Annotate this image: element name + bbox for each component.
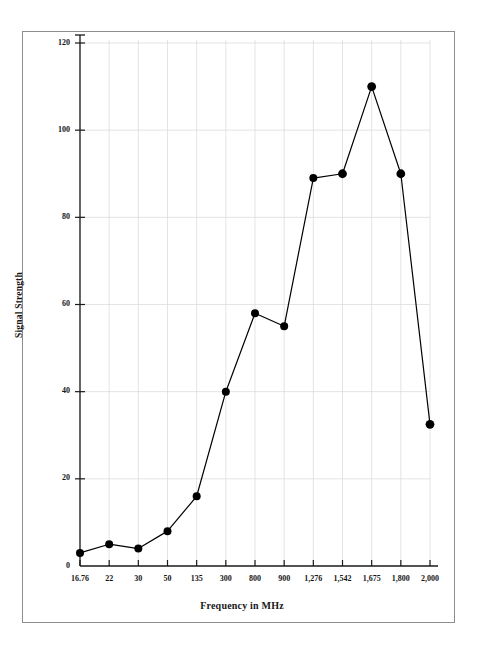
- y-tick-label: 0: [36, 561, 70, 570]
- data-point-marker[interactable]: [280, 322, 288, 330]
- x-axis-title: Frequency in MHz: [152, 600, 332, 611]
- y-tick-label: 60: [36, 299, 70, 308]
- data-point-marker[interactable]: [396, 169, 405, 178]
- data-point-marker[interactable]: [251, 309, 259, 317]
- x-tick-label: 2,000: [410, 574, 450, 583]
- y-tick-label: 20: [36, 473, 70, 482]
- data-point-marker[interactable]: [76, 549, 84, 557]
- y-tick-label: 120: [36, 38, 70, 47]
- data-point-marker[interactable]: [193, 492, 201, 500]
- data-point-marker[interactable]: [367, 82, 376, 91]
- data-point-marker[interactable]: [338, 169, 347, 178]
- data-point-marker[interactable]: [134, 545, 142, 553]
- y-tick-label: 40: [36, 386, 70, 395]
- data-point-marker[interactable]: [105, 540, 113, 548]
- y-tick-label: 100: [36, 125, 70, 134]
- y-tick-label: 80: [36, 212, 70, 221]
- data-point-marker[interactable]: [164, 527, 172, 535]
- data-point-marker[interactable]: [309, 174, 317, 182]
- data-point-marker[interactable]: [222, 388, 230, 396]
- data-point-marker[interactable]: [426, 420, 435, 429]
- y-axis-title: Signal Strength: [14, 250, 24, 360]
- line-chart: [0, 0, 477, 650]
